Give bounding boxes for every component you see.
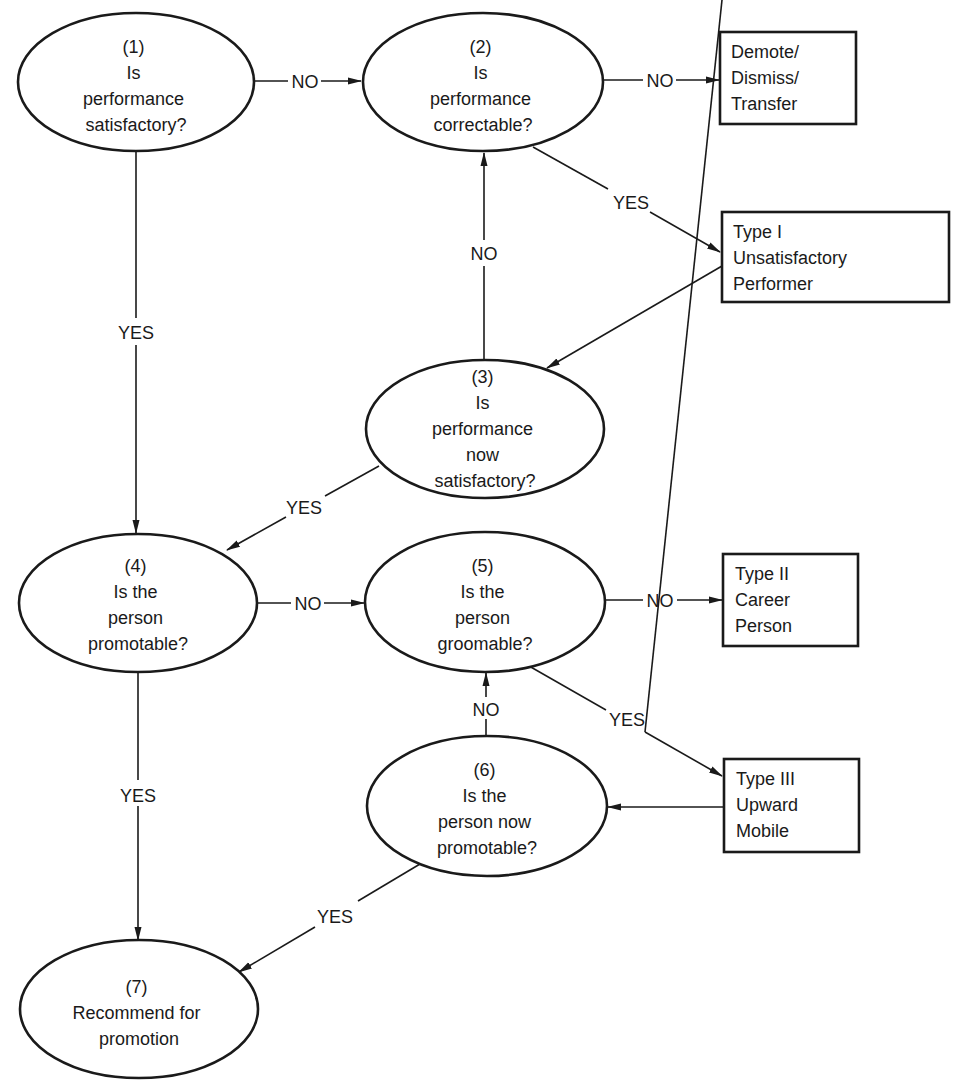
decision-node-5: (5) Is the person groomable? [365, 532, 605, 672]
outcome-box-type2: Type II Career Person [723, 554, 858, 646]
edge-n3-to-n4: YES [227, 466, 379, 550]
outcome-box-type1: Type I Unsatisfactory Performer [722, 212, 949, 302]
decision-node-2: (2) Is performance correctable? [363, 13, 603, 151]
edge-label-yes: YES [317, 907, 353, 927]
edge-label-yes: YES [120, 786, 156, 806]
svg-text:Type II Career Per: Type II Career Person [735, 564, 795, 636]
flowchart-canvas: NO NO YES NO YES YES NO N [0, 0, 966, 1089]
decision-node-6: (6) Is the person now promotable? [367, 736, 607, 876]
edge-label-no: NO [647, 71, 674, 91]
edge-label-yes: YES [286, 498, 322, 518]
outcome-box-demote: Demote/ Dismiss/ Transfer [720, 32, 856, 124]
decision-node-4: (4) Is the person promotable? [19, 534, 257, 672]
edge-n1-to-n2: NO [254, 72, 361, 92]
svg-text:Demote/ Dismiss/ T: Demote/ Dismiss/ Transfer [731, 42, 804, 114]
edge-n6-to-n7: YES [239, 864, 420, 972]
edge-label-no: NO [471, 244, 498, 264]
edge-label-yes: YES [118, 323, 154, 343]
edge-label-yes: YES [609, 710, 645, 730]
edge-label-no: NO [473, 700, 500, 720]
edge-n6-to-n5: NO [473, 673, 500, 736]
edge-label-no: NO [292, 72, 319, 92]
edge-label-no: NO [295, 594, 322, 614]
decision-node-1: (1) Is performance satisfactory? [18, 13, 254, 151]
edge-n3-to-n2: NO [471, 153, 498, 360]
edge-n5-to-type2: NO [605, 591, 722, 611]
edge-label-yes: YES [613, 193, 649, 213]
edge-n4-to-n5: NO [257, 594, 364, 614]
edge-type1-to-n3 [547, 266, 722, 368]
edge-n1-to-n4: YES [118, 152, 154, 533]
decision-node-3: (3) Is performance now satisfactory? [366, 360, 604, 498]
outcome-box-type3: Type III Upward Mobile [724, 759, 859, 852]
edge-n2-to-type1: YES [533, 147, 720, 252]
terminal-node-7: (7) Recommend for promotion [20, 940, 258, 1078]
edge-n4-to-n7: YES [120, 672, 156, 940]
edge-n2-to-demote: NO [603, 71, 719, 91]
